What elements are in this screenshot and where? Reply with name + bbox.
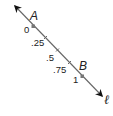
line-l [15,6,102,96]
point-b-value: 1 [73,74,78,85]
tick-05-label: .5 [46,52,54,63]
tick-075-label: .75 [53,64,66,75]
point-a-value: 0 [24,24,29,35]
number-line-diagram: A 0 .25 .5 .75 B 1 ℓ [0,0,113,116]
line-name-label: ℓ [104,92,110,107]
point-b-marker [81,75,85,79]
tick-025-label: .25 [31,37,44,48]
point-b-label: B [79,59,87,73]
point-a-marker [32,25,36,29]
point-a-label: A [29,9,38,23]
